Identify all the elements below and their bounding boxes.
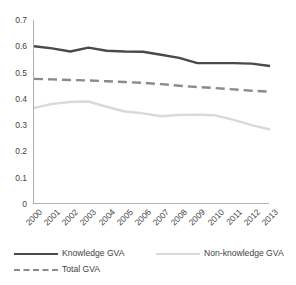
dashed-line-icon: [14, 269, 58, 271]
plot-area: [33, 20, 269, 204]
x-axis: 2000200120022003200420052006200720082009…: [33, 204, 269, 244]
y-axis-tick-label: 0.2: [0, 146, 27, 156]
chart-legend: Knowledge GVA Non-knowledge GVA Total GV…: [0, 248, 296, 285]
line-chart: 00.10.20.30.40.50.60.7 20002001200220032…: [0, 0, 296, 285]
y-axis-tick-label: 0.6: [0, 41, 27, 51]
series-line-non-knowledge-gva: [34, 101, 270, 129]
y-axis: 00.10.20.30.40.50.60.7: [0, 0, 31, 285]
y-axis-tick-label: 0.1: [0, 173, 27, 183]
y-axis-tick-label: 0.4: [0, 94, 27, 104]
legend-label-total-gva: Total GVA: [62, 264, 100, 275]
legend-label-knowledge-gva: Knowledge GVA: [62, 248, 124, 259]
y-axis-tick-label: 0: [0, 199, 27, 209]
y-axis-tick-label: 0.3: [0, 120, 27, 130]
series-line-total-gva: [34, 79, 270, 92]
series-canvas: [34, 20, 270, 204]
series-line-knowledge-gva: [34, 46, 270, 66]
solid-dark-line-icon: [14, 253, 58, 255]
y-axis-tick-label: 0.7: [0, 15, 27, 25]
y-axis-tick-label: 0.5: [0, 68, 27, 78]
legend-label-non-knowledge-gva: Non-knowledge GVA: [204, 248, 284, 259]
solid-light-line-icon: [156, 253, 200, 255]
